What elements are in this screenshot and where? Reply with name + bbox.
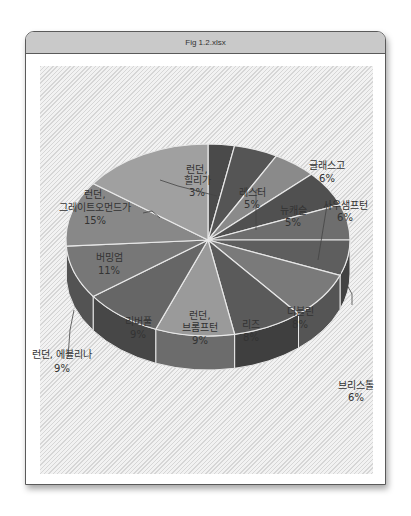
label-11-b: 11% (98, 265, 120, 276)
label-12-b: 그레이트오먼드가 (59, 202, 131, 213)
label-8-b: 브롬프턴 (182, 322, 218, 333)
label-6-b: 8% (292, 319, 308, 330)
label-1-a: 레스터 (239, 187, 266, 198)
label-7-a: 리즈 (242, 319, 260, 330)
label-8-c: 9% (192, 335, 208, 346)
label-8-a: 런던, (189, 310, 210, 321)
label-5-b: 6% (348, 392, 364, 403)
label-4-b: 6% (337, 212, 353, 223)
label-10-a: 런던, 에블리나 (32, 349, 92, 360)
label-0-b: 힐리가 (184, 174, 211, 186)
label-3-b: 6% (319, 173, 335, 184)
label-3-a: 글래스고 (309, 160, 345, 171)
label-4-a: 사우샘프턴 (323, 200, 368, 211)
label-7-b: 8% (243, 332, 259, 343)
label-5-a: 브리스톨 (338, 380, 374, 391)
label-2-b: 5% (285, 217, 301, 228)
label-0-c: 3% (189, 187, 205, 198)
label-2-a: 뉴캐슬 (280, 205, 307, 216)
label-12-c: 15% (84, 215, 106, 226)
label-9-a: 리버풀 (125, 316, 152, 327)
label-1-b: 5% (244, 199, 260, 210)
label-10-b: 9% (54, 363, 70, 374)
label-12-a: 런던, (84, 189, 105, 200)
label-6-a: 더블린 (287, 306, 314, 317)
label-9-b: 9% (130, 329, 146, 340)
label-11-a: 버밍엄 (96, 252, 123, 263)
pie-chart: 런던, 힐리가 3% 레스터 5% 뉴캐슬 5% 글래스고 6% 사우샘프턴 6… (0, 0, 411, 516)
label-0-a: 런던, (186, 164, 207, 175)
